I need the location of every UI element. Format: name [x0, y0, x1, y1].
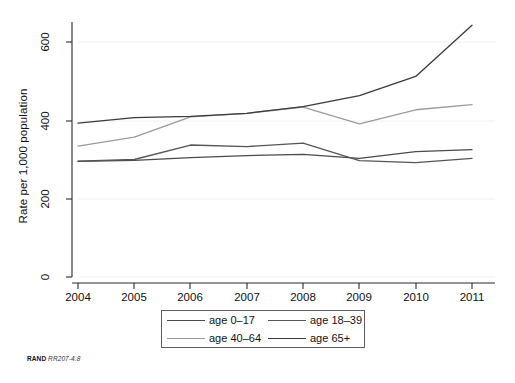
y-axis	[66, 22, 72, 277]
series-line-age-0-17	[78, 150, 472, 162]
y-tick-label-400: 400	[39, 104, 51, 138]
y-tick-label-600: 600	[39, 25, 51, 59]
x-tick-label-2011: 2011	[449, 291, 495, 303]
chart-figure: Rate per 1,000 population 600 400 200 0 …	[0, 0, 515, 383]
x-tick-label-2008: 2008	[280, 291, 326, 303]
legend-swatch-age-65-plus	[268, 338, 306, 339]
legend-label-age-0-17: age 0–17	[209, 314, 255, 326]
x-tick-label-2005: 2005	[111, 291, 157, 303]
legend-swatch-age-40-64	[167, 338, 205, 339]
series-line-age-40-64	[78, 105, 472, 147]
x-tick-label-2010: 2010	[393, 291, 439, 303]
legend-label-age-65-plus: age 65+	[310, 332, 350, 344]
y-tick-label-0: 0	[39, 260, 51, 294]
x-tick-label-2004: 2004	[55, 291, 101, 303]
legend-entry-age-0-17: age 0–17	[162, 314, 263, 326]
chart-legend: age 0–17 age 18–39 age 40–64 age 65+	[161, 310, 365, 348]
rand-figure-id: RR207-4.8	[48, 355, 80, 362]
rand-footer: RAND RR207-4.8	[27, 355, 80, 362]
series-line-age-65-plus	[78, 25, 472, 123]
legend-swatch-age-0-17	[167, 320, 205, 321]
legend-entry-age-18-39: age 18–39	[263, 314, 364, 326]
legend-swatch-age-18-39	[268, 320, 306, 321]
x-tick-label-2009: 2009	[336, 291, 382, 303]
legend-entry-age-40-64: age 40–64	[162, 332, 263, 344]
y-tick-label-200: 200	[39, 182, 51, 216]
x-tick-label-2007: 2007	[224, 291, 270, 303]
legend-label-age-18-39: age 18–39	[310, 314, 362, 326]
legend-entry-age-65-plus: age 65+	[263, 332, 364, 344]
x-tick-label-2006: 2006	[167, 291, 213, 303]
series-lines	[78, 25, 472, 162]
x-axis	[72, 283, 495, 289]
rand-logo-text: RAND	[27, 355, 46, 362]
legend-label-age-40-64: age 40–64	[209, 332, 261, 344]
y-axis-title: Rate per 1,000 population	[17, 41, 29, 271]
